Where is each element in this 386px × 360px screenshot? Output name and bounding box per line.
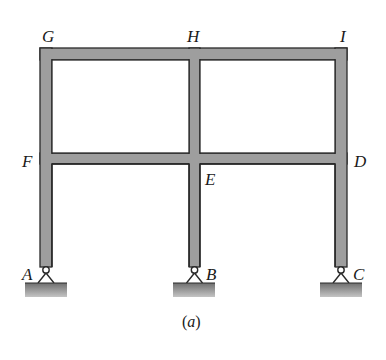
caption-paren-close: ): [195, 313, 200, 330]
panel-upper-right: [200, 60, 335, 153]
pin-triangle-icon: [38, 273, 54, 283]
joint-label-D: D: [354, 153, 366, 170]
figure-caption: (a): [182, 314, 201, 330]
pin-icon: [43, 267, 49, 273]
joint-label-A: A: [22, 266, 32, 283]
joint-label-G: G: [42, 28, 54, 45]
ground-hatch-C: [320, 283, 362, 297]
joint-label-F: F: [22, 153, 32, 170]
joint-label-B: B: [206, 266, 216, 283]
joint-label-I: I: [340, 28, 346, 45]
joint-label-C: C: [353, 266, 364, 283]
joint-label-E: E: [205, 171, 215, 188]
ground-hatch-B: [173, 283, 215, 297]
pin-triangle-icon: [187, 273, 203, 283]
frame-structure: [40, 48, 347, 275]
pin-triangle-icon: [333, 273, 349, 283]
joint-label-H: H: [187, 28, 199, 45]
panel-upper-left: [52, 60, 189, 153]
pin-icon: [338, 267, 344, 273]
ground-hatch-A: [25, 283, 67, 297]
pin-icon: [191, 267, 197, 273]
two-story-frame-diagram: [0, 0, 386, 360]
